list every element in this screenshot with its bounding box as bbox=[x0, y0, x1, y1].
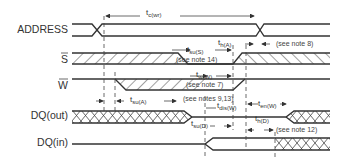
timing-tsu-a: tsu(A) bbox=[96, 95, 176, 105]
timing-tdis-w: (see notes 9,13) tdis(W) bbox=[183, 95, 237, 111]
timing-diagram: ADDRESS S W DQ(out) DQ(in) bbox=[0, 0, 347, 166]
signal-labels: ADDRESS S W DQ(out) DQ(in) bbox=[17, 23, 68, 148]
timing-tc-wr: tc(wr) bbox=[106, 8, 254, 18]
svg-text:ten(W): ten(W) bbox=[258, 99, 277, 109]
svg-text:tsu(A): tsu(A) bbox=[130, 95, 147, 105]
label-address: ADDRESS bbox=[17, 23, 68, 35]
label-dq-in: DQ(in) bbox=[37, 136, 68, 148]
waveform-dq-in bbox=[72, 138, 330, 150]
svg-text:tdis(W): tdis(W) bbox=[217, 101, 237, 111]
label-dq-out: DQ(out) bbox=[31, 109, 68, 121]
svg-text:tc(wr): tc(wr) bbox=[146, 8, 162, 18]
svg-text:tsu(S): tsu(S) bbox=[187, 45, 204, 55]
svg-text:(see note 12): (see note 12) bbox=[276, 126, 317, 134]
svg-text:(see note 14): (see note 14) bbox=[176, 56, 217, 64]
waveform-address bbox=[72, 24, 330, 36]
waveform-dq-out bbox=[72, 111, 330, 123]
svg-text:tw(W): tw(W) bbox=[196, 70, 212, 80]
svg-text:(see note 7): (see note 7) bbox=[186, 81, 223, 89]
svg-text:th(D): th(D) bbox=[255, 114, 269, 124]
note-8: (see note 8) bbox=[276, 40, 313, 48]
label-s: S bbox=[61, 53, 68, 65]
timing-th-a: th(A) (see note 8) bbox=[218, 38, 313, 48]
svg-text:(see notes 9,13): (see notes 9,13) bbox=[183, 95, 234, 103]
label-w: W bbox=[58, 79, 68, 91]
timing-ten-w: ten(W) bbox=[248, 99, 286, 109]
timing-tsu-d: tsu(D) bbox=[191, 119, 231, 129]
svg-text:th(A): th(A) bbox=[218, 38, 232, 48]
